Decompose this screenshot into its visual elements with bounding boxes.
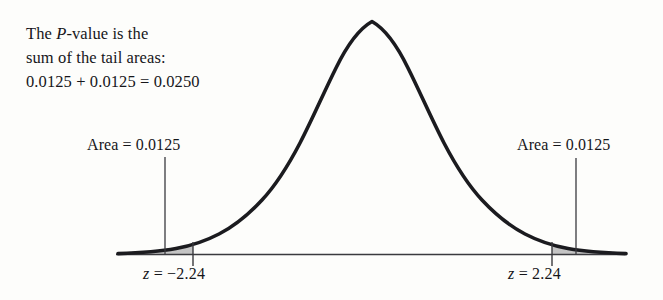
figure-text-layer: The P-value is the sum of the tail areas…: [0, 0, 663, 300]
p-value-note-line-1-suffix: -value is the: [66, 24, 148, 43]
right-area-label: Area = 0.0125: [517, 136, 610, 154]
p-symbol: P: [56, 24, 66, 43]
right-z-value: = 2.24: [514, 265, 560, 282]
left-area-label: Area = 0.0125: [87, 136, 180, 154]
left-z-axis-label: z = −2.24: [143, 265, 205, 283]
p-value-note-line-2: sum of the tail areas:: [26, 46, 200, 70]
p-value-note: The P-value is the sum of the tail areas…: [26, 22, 200, 94]
p-value-note-line-1-prefix: The: [26, 24, 56, 43]
p-value-note-line-3: 0.0125 + 0.0125 = 0.0250: [26, 70, 200, 94]
left-z-value: = −2.24: [149, 265, 205, 282]
normal-curve-figure: The P-value is the sum of the tail areas…: [0, 0, 663, 300]
p-value-note-line-1: The P-value is the: [26, 22, 200, 46]
right-z-axis-label: z = 2.24: [508, 265, 561, 283]
